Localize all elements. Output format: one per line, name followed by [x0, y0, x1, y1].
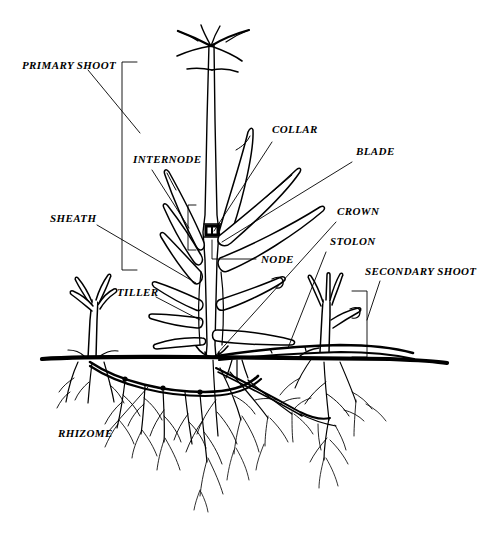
grass-anatomy-diagram: PRIMARY SHOOT INTERNODE SHEATH TILLER RH… [0, 0, 489, 534]
stolon-group [217, 345, 414, 379]
right-shoot-group [300, 273, 361, 356]
node-band [204, 224, 221, 237]
secondary-shoot-bracket [352, 291, 367, 357]
label-node: NODE [260, 253, 294, 265]
left-shoot-group [68, 274, 118, 358]
culm-stem [203, 44, 219, 358]
label-crown: CROWN [337, 205, 380, 217]
seed-head-group [177, 25, 249, 72]
label-rhizome: RHIZOME [57, 427, 113, 439]
label-stolon: STOLON [330, 235, 376, 247]
primary-shoot-bracket [122, 62, 137, 270]
label-primary-shoot: PRIMARY SHOOT [22, 59, 117, 71]
diagram-canvas: PRIMARY SHOOT INTERNODE SHEATH TILLER RH… [0, 0, 489, 534]
label-sheath: SHEATH [50, 212, 96, 224]
label-internode: INTERNODE [132, 153, 201, 165]
label-tiller: TILLER [117, 286, 159, 298]
rhizome-group [90, 362, 330, 419]
label-blade: BLADE [355, 145, 395, 157]
label-secondary-shoot: SECONDARY SHOOT [365, 265, 477, 277]
primary-shoot-leader [88, 70, 140, 133]
leaf-blades-right [213, 128, 325, 345]
secondary-shoot-leader [367, 281, 380, 320]
label-collar: COLLAR [272, 123, 318, 135]
